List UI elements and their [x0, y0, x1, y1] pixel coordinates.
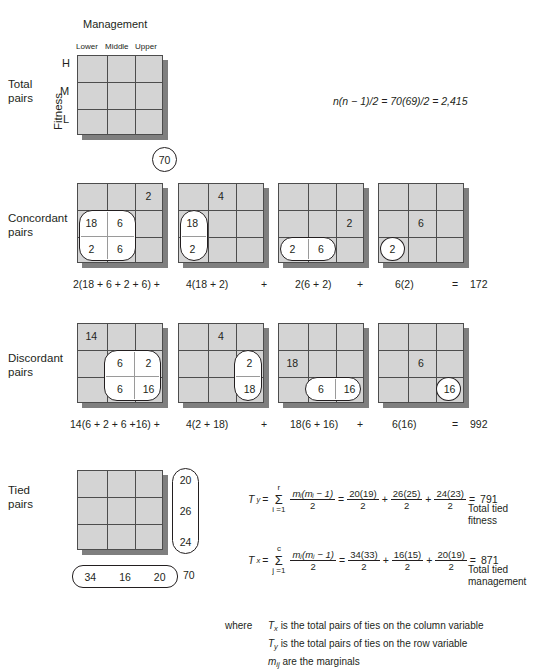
discordant-plus-1: +	[261, 418, 267, 430]
legend-tx-text: is the total pairs of ties on the column…	[278, 620, 484, 631]
cell-highlight: 2	[235, 349, 264, 375]
column-header-lower: Lower	[76, 42, 98, 51]
cell-multiplier: 6	[407, 349, 436, 375]
tx-plus-1: +	[383, 554, 389, 566]
tx-sigma-bottom: j =1	[272, 566, 285, 575]
column-marginal-2: 16	[119, 571, 131, 583]
tx-term-1-num: 34(33)	[348, 549, 379, 561]
grid-body	[77, 470, 163, 550]
ty-equals-1: =	[262, 493, 268, 505]
tx-term-3: 20(19) 2	[435, 549, 466, 572]
tx-general-num: mⱼ(mⱼ − 1)	[290, 549, 336, 561]
discordant-plus-2: +	[357, 418, 363, 430]
ty-term-2: 26(25) 2	[391, 488, 422, 511]
cell-highlight: 6	[106, 236, 135, 262]
legend-where-label: where	[225, 618, 252, 633]
legend-line-m: mij are the marginals	[268, 654, 484, 672]
ty-plus-1: +	[382, 493, 388, 505]
tx-equals-1: =	[262, 554, 268, 566]
ty-plus-2: +	[425, 493, 431, 505]
cell-highlight: 6	[307, 236, 336, 262]
cell-highlight: 16	[134, 376, 163, 402]
ty-formula: Ty = r Σ i =1 mᵢ(mᵢ − 1) 2 = 20(19) 2 + …	[248, 484, 498, 514]
section-label-tied-line2: pairs	[8, 498, 33, 512]
row-header-l: L	[63, 113, 69, 125]
cell-highlight: 18	[235, 376, 264, 402]
tx-formula: Tx = c Σ j =1 mⱼ(mⱼ − 1) 2 = 34(33) 2 + …	[248, 545, 499, 575]
tx-term-1: 34(33) 2	[348, 549, 379, 572]
ty-general-den: 2	[290, 500, 335, 511]
ty-term-1: 20(19) 2	[347, 488, 378, 511]
tx-equals-2: =	[339, 554, 345, 566]
concordant-plus-2: +	[357, 278, 363, 290]
tx-term-3-num: 20(19)	[435, 549, 466, 561]
tx-term-2-den: 2	[392, 561, 423, 572]
ty-caption: Total tied fitness	[468, 503, 508, 527]
cell-highlight: 6	[106, 376, 135, 402]
section-label-concordant: Concordant pairs	[8, 212, 67, 239]
sample-size-circle: 70	[152, 147, 177, 172]
section-label-discordant: Discordant pairs	[8, 352, 63, 379]
ty-symbol-sub: y	[256, 495, 260, 504]
grid-body	[77, 55, 163, 135]
tx-term-2: 16(15) 2	[392, 549, 423, 572]
cell-highlight: 16	[335, 376, 364, 402]
cell-highlight: 18	[77, 209, 106, 235]
column-marginals-capsule: 34 16 20	[72, 565, 178, 588]
concordant-term-4: 6(2)	[395, 278, 414, 290]
column-header-upper: Upper	[135, 42, 157, 51]
cell-highlight: 6	[106, 209, 135, 235]
legend-m-text: are the marginals	[280, 656, 360, 667]
grand-total: 70	[183, 569, 195, 581]
ty-term-1-den: 2	[347, 500, 378, 511]
cell-multiplier: 6	[407, 209, 436, 235]
tx-general-den: 2	[290, 561, 336, 572]
ty-term-2-den: 2	[391, 500, 422, 511]
cell-highlight: 2	[134, 349, 163, 375]
tx-symbol: T	[248, 554, 254, 566]
tx-term-1-den: 2	[348, 561, 379, 572]
cell-highlight: 6	[307, 376, 336, 402]
cell-multiplier: 2	[335, 209, 364, 235]
row-header-m: M	[60, 85, 69, 97]
row-marginals-capsule: 20 26 24	[172, 468, 199, 554]
tx-caption: Total tied management	[468, 564, 526, 588]
column-header-middle: Middle	[105, 42, 129, 51]
ty-symbol: T	[248, 493, 254, 505]
discordant-term-3: 18(6 + 16)	[290, 418, 338, 430]
cell-multiplier: 4	[207, 183, 236, 209]
section-label-total-line2: pairs	[8, 92, 33, 106]
ty-sigma-bottom: i =1	[272, 505, 285, 514]
cell-multiplier: 4	[207, 323, 236, 349]
column-marginal-1: 34	[84, 571, 96, 583]
ty-term-2-num: 26(25)	[391, 488, 422, 500]
ty-term-3-den: 2	[434, 500, 465, 511]
row-marginal-1: 20	[180, 474, 192, 486]
section-label-total: Total pairs	[8, 78, 33, 105]
legend-ty-text: is the total pairs of ties on the row va…	[278, 638, 468, 649]
ty-caption-line1: Total tied	[468, 503, 508, 515]
ty-term-1-num: 20(19)	[347, 488, 378, 500]
section-label-concordant-line1: Concordant	[8, 212, 67, 226]
tx-general-term: mⱼ(mⱼ − 1) 2	[290, 549, 336, 572]
ty-general-term: mᵢ(mᵢ − 1) 2	[290, 488, 335, 511]
concordant-term-2: 4(18 + 2)	[186, 278, 228, 290]
total-pairs-formula: n(n − 1)/2 = 70(69)/2 = 2,415	[333, 95, 468, 107]
tx-symbol-sub: x	[256, 556, 260, 565]
discordant-term-2: 4(2 + 18)	[186, 418, 228, 430]
ty-caption-line2: fitness	[468, 515, 508, 527]
ty-sigma-top: r	[278, 483, 281, 492]
column-marginal-3: 20	[154, 571, 166, 583]
legend-line-tx: Tx is the total pairs of ties on the col…	[268, 618, 484, 636]
cell-highlight: 2	[77, 236, 106, 262]
section-label-discordant-line1: Discordant	[8, 352, 63, 366]
discordant-term-1: 14(6 + 2 + 6 +16) +	[70, 418, 160, 430]
cell-highlight: 18	[178, 209, 207, 235]
cell-multiplier: 14	[77, 323, 106, 349]
cell-multiplier: 2	[134, 183, 163, 209]
cell-highlight: 2	[378, 236, 407, 262]
cell-highlight: 2	[178, 236, 207, 262]
tx-caption-line1: Total tied	[468, 564, 526, 576]
ty-general-num: mᵢ(mᵢ − 1)	[290, 488, 335, 500]
ty-equals-2: =	[338, 493, 344, 505]
